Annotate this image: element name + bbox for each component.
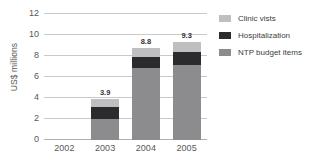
stacked-bar[interactable]: 8.8 — [132, 48, 160, 140]
bar-segment[interactable] — [173, 42, 201, 51]
y-axis-tick-label: 12 — [29, 8, 39, 18]
legend-item-label: Hospitalization — [238, 31, 290, 40]
bar-segment[interactable] — [132, 57, 160, 68]
legend-item[interactable]: Hospitalization — [218, 29, 312, 42]
legend-item[interactable]: NTP budget items — [218, 46, 312, 59]
bar-slot — [44, 14, 85, 140]
bar-segment[interactable] — [173, 52, 201, 65]
stacked-bar-chart: US$ millions 024681012 3.98.89.3 2002200… — [0, 0, 314, 163]
legend-swatch-icon — [218, 48, 232, 57]
bar-slot: 8.8 — [126, 14, 167, 140]
y-axis-tick-label: 6 — [34, 71, 39, 81]
bar-value-label: 3.9 — [100, 88, 110, 97]
stacked-bar[interactable]: 9.3 — [173, 42, 201, 140]
bar-value-label: 9.3 — [181, 31, 191, 40]
y-axis-tick-label: 4 — [34, 92, 39, 102]
bar-segment[interactable] — [91, 99, 119, 107]
bar-segment[interactable] — [132, 48, 160, 57]
bar-slot: 3.9 — [85, 14, 126, 140]
bar-group: 3.98.89.3 — [44, 14, 207, 140]
legend-item-label: Clinic vists — [238, 14, 276, 23]
x-axis-tick-label: 2003 — [85, 143, 126, 153]
stacked-bar[interactable]: 3.9 — [91, 99, 119, 140]
legend-swatch-icon — [218, 14, 232, 23]
x-axis-tick-label: 2004 — [126, 143, 167, 153]
legend-item-label: NTP budget items — [238, 48, 302, 57]
y-axis-tick-label: 10 — [29, 29, 39, 39]
x-axis-tick-labels: 2002200320042005 — [44, 143, 207, 153]
bar-segment[interactable] — [91, 107, 119, 119]
y-axis-tick-label: 0 — [34, 134, 39, 144]
bar-value-label: 8.8 — [141, 37, 151, 46]
y-axis-tick-label: 2 — [34, 113, 39, 123]
plot-area: 024681012 3.98.89.3 — [44, 14, 207, 140]
x-axis-tick-label: 2005 — [166, 143, 207, 153]
bar-segment[interactable] — [132, 68, 160, 140]
legend-item[interactable]: Clinic vists — [218, 12, 312, 25]
bar-segment[interactable] — [173, 65, 201, 140]
x-axis-tick-label: 2002 — [44, 143, 85, 153]
bar-segment[interactable] — [91, 119, 119, 140]
y-axis-title: US$ millions — [9, 27, 19, 107]
y-axis-tick-label: 8 — [34, 50, 39, 60]
chart-legend: Clinic vistsHospitalizationNTP budget it… — [218, 12, 312, 63]
legend-swatch-icon — [218, 31, 232, 40]
bar-slot: 9.3 — [166, 14, 207, 140]
